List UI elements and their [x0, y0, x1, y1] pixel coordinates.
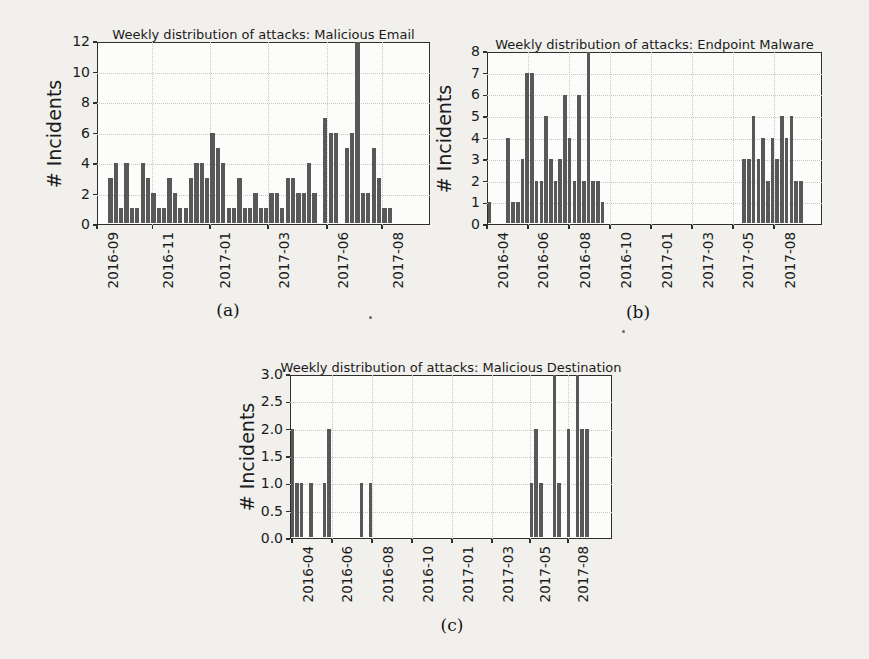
x-axis-tick — [773, 225, 774, 229]
bar — [525, 73, 529, 223]
x-axis-tick — [209, 225, 210, 229]
grid-line-h — [487, 74, 822, 75]
caption-b: (b) — [626, 302, 650, 322]
bar — [794, 181, 798, 224]
bar — [585, 429, 589, 537]
bar — [350, 133, 354, 224]
bar — [243, 208, 247, 223]
y-tick-label: 3.0 — [261, 366, 283, 382]
bar — [596, 181, 600, 224]
y-axis-tick — [93, 102, 97, 103]
bar — [530, 483, 534, 537]
bar — [345, 148, 349, 224]
grid-line-v — [610, 52, 611, 225]
plot-area — [290, 375, 612, 539]
bar — [775, 159, 779, 223]
x-tick-label: 2016-09 — [105, 232, 121, 288]
bar — [334, 133, 338, 224]
y-axis-tick — [286, 511, 290, 512]
bar — [488, 202, 492, 223]
grid-line-v — [528, 52, 529, 225]
bar — [184, 208, 188, 223]
bar — [178, 208, 182, 223]
bar — [227, 208, 231, 223]
bar — [248, 208, 252, 223]
bar — [388, 208, 392, 223]
x-axis-tick — [291, 539, 292, 543]
y-tick-label: 12 — [72, 33, 90, 49]
grid-line-h — [290, 484, 612, 485]
bar — [558, 159, 562, 223]
x-tick-label: 2017-01 — [460, 546, 476, 602]
y-axis-tick — [483, 116, 487, 117]
bar — [360, 483, 364, 537]
chart-endpoint-malware: 0123456782016-042016-062016-082016-10201… — [0, 0, 869, 659]
bar — [141, 163, 145, 223]
bar — [269, 193, 273, 223]
y-axis-tick — [483, 95, 487, 96]
y-axis-tick — [483, 203, 487, 204]
y-tick-label: 2.0 — [261, 421, 283, 437]
bar — [237, 178, 241, 223]
x-tick-label: 2017-08 — [390, 232, 406, 288]
grid-line-v — [210, 42, 211, 225]
bar — [323, 118, 327, 224]
y-tick-label: 10 — [72, 64, 90, 80]
bar — [130, 208, 134, 223]
x-axis-tick — [331, 539, 332, 543]
y-tick-label: 4 — [81, 155, 90, 171]
bar — [568, 138, 572, 224]
bar — [591, 181, 595, 224]
bar — [146, 178, 150, 223]
grid-line-v — [692, 52, 693, 225]
x-tick-label: 2016-10 — [618, 232, 634, 288]
x-axis-tick — [568, 225, 569, 229]
bar — [511, 202, 515, 223]
grid-line-v — [268, 42, 269, 225]
y-tick-label: 4 — [471, 130, 480, 146]
bar — [752, 116, 756, 223]
bar — [135, 208, 139, 223]
y-tick-label: 2 — [81, 186, 90, 202]
y-axis-tick — [286, 402, 290, 403]
x-tick-label: 2016-08 — [577, 232, 593, 288]
bar — [544, 116, 548, 223]
grid-line-h — [487, 95, 822, 96]
bar — [300, 483, 304, 537]
bar — [535, 181, 539, 224]
x-axis-tick — [381, 225, 382, 229]
x-axis-tick — [411, 539, 412, 543]
x-axis-tick — [650, 225, 651, 229]
bar — [377, 178, 381, 223]
bar — [329, 133, 333, 224]
plot-area — [97, 42, 430, 225]
bar — [580, 429, 584, 537]
y-tick-label: 6 — [81, 125, 90, 141]
bar — [253, 193, 257, 223]
y-axis-label: # Incidents — [433, 84, 455, 192]
bar — [576, 375, 580, 537]
bar — [296, 193, 300, 223]
plot-area — [487, 52, 822, 225]
caption-a: (a) — [216, 300, 239, 320]
bar — [747, 159, 751, 223]
bar — [210, 133, 214, 224]
bar — [557, 483, 561, 537]
bar — [221, 163, 225, 223]
x-axis-tick — [451, 539, 452, 543]
y-axis-tick — [286, 484, 290, 485]
bar — [327, 429, 331, 537]
y-axis-tick — [93, 224, 97, 225]
grid-line-h — [97, 195, 430, 196]
bar — [291, 178, 295, 223]
y-tick-label: 1.0 — [261, 475, 283, 491]
y-tick-label: 5 — [471, 108, 480, 124]
bar — [151, 193, 155, 223]
bar — [601, 202, 605, 223]
bar — [232, 208, 236, 223]
y-axis-label: # Incidents — [236, 403, 258, 511]
bar — [382, 208, 386, 223]
x-axis-tick — [609, 225, 610, 229]
bar — [530, 73, 534, 223]
x-axis-tick — [691, 225, 692, 229]
